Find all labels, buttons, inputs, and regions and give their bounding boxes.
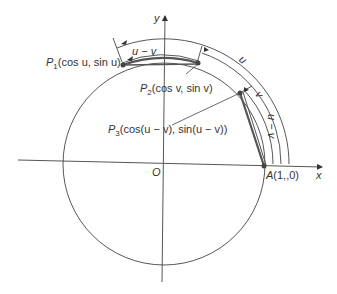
- point-p2: [196, 61, 201, 66]
- x-axis-label: x: [315, 169, 322, 181]
- p2-label: P2(cos v, sin v): [140, 82, 213, 97]
- p1-label: P1(cos u, sin u): [46, 56, 121, 71]
- y-axis: [162, 16, 165, 282]
- point-p1: [121, 63, 126, 68]
- point-p3: [238, 91, 243, 96]
- arc-label-u-minus-v-top: u − v: [132, 45, 158, 57]
- a-label: A(1,,0): [265, 169, 299, 181]
- arc-label-u-minus-v-right: u − v: [266, 114, 278, 140]
- x-axis: [18, 160, 322, 167]
- point-a: [262, 164, 267, 169]
- p3-leader: [172, 93, 240, 125]
- arc-v: [202, 53, 281, 164]
- p3-label: P3(cos(u − v), sin(u − v)): [108, 123, 227, 138]
- chord-p1-p2-straight: [123, 64, 198, 65]
- chord-p3-a: [240, 93, 264, 166]
- tick-v-end: [197, 46, 202, 63]
- origin-label: O: [152, 166, 161, 178]
- arrowhead-u: [121, 40, 127, 45]
- arrowhead-v: [204, 47, 209, 52]
- unit-circle-diagram: y x O P1(cos u, sin u) P2(cos v, sin v) …: [0, 0, 337, 294]
- y-axis-label: y: [153, 12, 161, 24]
